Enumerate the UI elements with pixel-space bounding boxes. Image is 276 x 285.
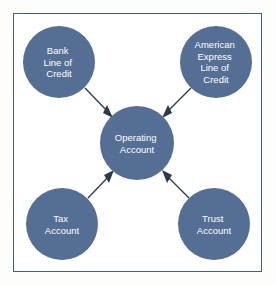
arrow-head-icon <box>104 170 114 183</box>
diagram-canvas: Bank Line of Credit American Express Lin… <box>0 0 276 285</box>
arrow-head-icon <box>103 105 113 118</box>
node-trust-account[interactable]: Trust Account <box>178 188 250 260</box>
arrow-head-icon <box>162 105 172 118</box>
node-operating-account[interactable]: Operating Account <box>100 106 174 180</box>
node-bank-line-of-credit[interactable]: Bank Line of Credit <box>23 26 95 98</box>
arrow-tax-to-operating <box>88 170 114 198</box>
arrow-head-icon <box>162 170 172 183</box>
arrow-amex-to-operating <box>162 88 191 118</box>
diagram-root: Bank Line of Credit American Express Lin… <box>0 0 276 285</box>
node-american-express-line-of-credit[interactable]: American Express Line of Credit <box>180 26 252 98</box>
node-label: Operating Account <box>115 132 159 155</box>
arrow-bank-to-operating <box>85 88 113 118</box>
node-tax-account[interactable]: Tax Account <box>26 188 98 260</box>
arrow-trust-to-operating <box>162 170 189 198</box>
node-label: Bank Line of Credit <box>43 45 74 79</box>
